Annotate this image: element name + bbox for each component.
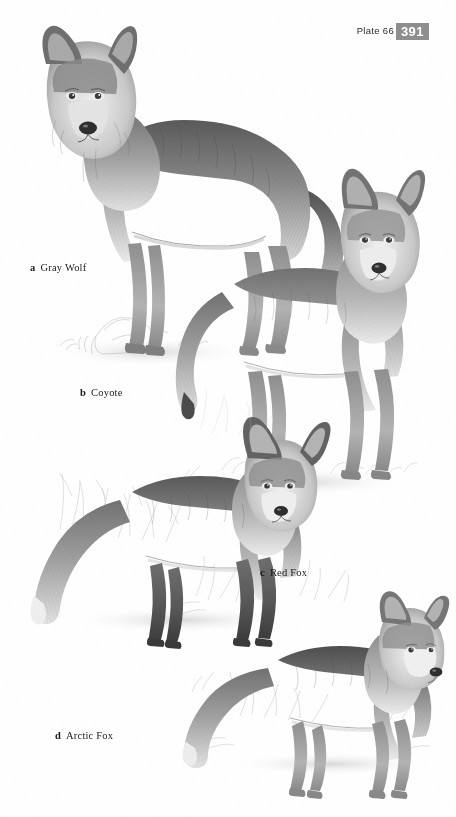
page-number-badge: 391 [396, 23, 429, 40]
caption-label-arctic-fox: Arctic Fox [66, 730, 113, 741]
caption-label-coyote: Coyote [91, 387, 123, 398]
figure-gray-wolf [42, 26, 343, 367]
caption-letter-a: a [30, 262, 35, 273]
caption-arctic-fox: dArctic Fox [55, 730, 113, 741]
paper-grain [0, 0, 456, 817]
caption-coyote: bCoyote [80, 387, 123, 398]
caption-label-red-fox: Red Fox [270, 567, 307, 578]
figure-red-fox [30, 417, 348, 649]
plate-illustration-area [0, 0, 456, 817]
caption-label-gray-wolf: Gray Wolf [40, 262, 86, 273]
caption-letter-b: b [80, 387, 86, 398]
page-header: Plate 66 391 [0, 0, 456, 48]
figure-coyote [176, 169, 425, 496]
background-brush [200, 388, 274, 438]
canid-plate-artwork [0, 0, 456, 817]
plate-label: Plate 66 [357, 25, 394, 36]
caption-letter-c: c [260, 567, 265, 578]
figure-arctic-fox [182, 591, 449, 799]
plate-page: Plate 66 391 aGray Wolf bCoyote cRed Fox… [0, 0, 456, 817]
caption-letter-d: d [55, 730, 61, 741]
caption-red-fox: cRed Fox [260, 567, 307, 578]
caption-gray-wolf: aGray Wolf [30, 262, 86, 273]
